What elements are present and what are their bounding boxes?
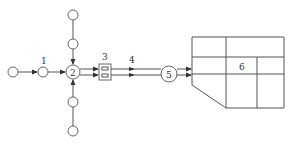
arrows-5-to-6 — [177, 69, 191, 75]
bottom-chain — [68, 80, 78, 136]
arrows-2-to-3 — [80, 69, 98, 75]
source-top-1-circle — [68, 10, 78, 20]
source-top-2-circle — [68, 39, 78, 49]
node-4-label: 4 — [129, 55, 135, 65]
node-3-box — [99, 64, 111, 80]
flow-diagram: 1 2 3 4 5 — [0, 0, 293, 144]
pipe-upper-arrow-icon — [129, 67, 135, 71]
node-2: 2 — [66, 65, 80, 79]
node-3-label: 3 — [102, 52, 108, 62]
top-chain — [68, 10, 78, 64]
source-left-circle — [8, 67, 18, 77]
node-1-circle — [38, 67, 48, 77]
node-6-building: 6 — [192, 37, 284, 108]
node-1-label: 1 — [41, 56, 47, 66]
building-outline — [192, 37, 284, 108]
node-2-label: 2 — [70, 68, 76, 78]
pipe-lower-arrow-icon — [129, 73, 135, 77]
node-6-label: 6 — [239, 62, 245, 72]
node-5-label: 5 — [166, 70, 172, 80]
node-4-pipes: 4 — [111, 55, 161, 77]
node-5: 5 — [161, 66, 177, 82]
source-bottom-2-circle — [68, 126, 78, 136]
source-bottom-1-circle — [68, 97, 78, 107]
left-chain: 1 — [8, 56, 65, 77]
node-3: 3 — [99, 52, 111, 80]
